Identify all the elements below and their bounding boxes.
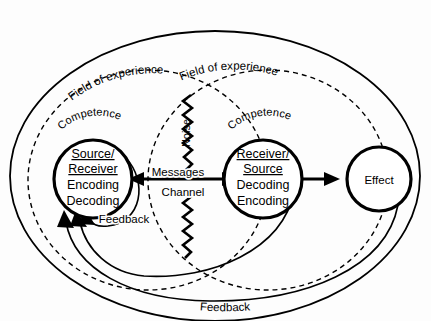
receiver-source-line4: Encoding: [237, 194, 289, 208]
noise-zigzag-lower: [183, 190, 192, 258]
messages-label: Messages: [152, 166, 205, 178]
field-of-experience-right-label: Field of experience: [178, 59, 280, 82]
competence-right-label: Competence: [225, 105, 293, 131]
receiver-source-line2: Source: [243, 162, 283, 176]
source-receiver-line1: Source/: [71, 147, 115, 161]
effect-label: Effect: [364, 174, 394, 186]
competence-left-label: Competence: [55, 105, 123, 131]
noise-label: Noise: [180, 119, 192, 147]
feedback-far-label: Feedback: [200, 300, 251, 313]
channel-label: Channel: [162, 186, 205, 198]
receiver-source-line1: Receiver/: [237, 147, 290, 161]
source-receiver-line4: Decoding: [67, 194, 120, 208]
effect-arrowhead: [324, 172, 340, 186]
field-of-experience-left-label: Field of experience: [66, 63, 164, 102]
diagram-canvas: Context Field of experience Field of exp…: [0, 0, 431, 321]
feedback-near-label: Feedback: [99, 213, 150, 225]
receiver-source-line3: Decoding: [237, 178, 290, 192]
source-receiver-line3: Encoding: [67, 178, 119, 192]
source-receiver-line2: Receiver: [68, 162, 117, 176]
communication-model-svg: Context Field of experience Field of exp…: [0, 0, 431, 321]
